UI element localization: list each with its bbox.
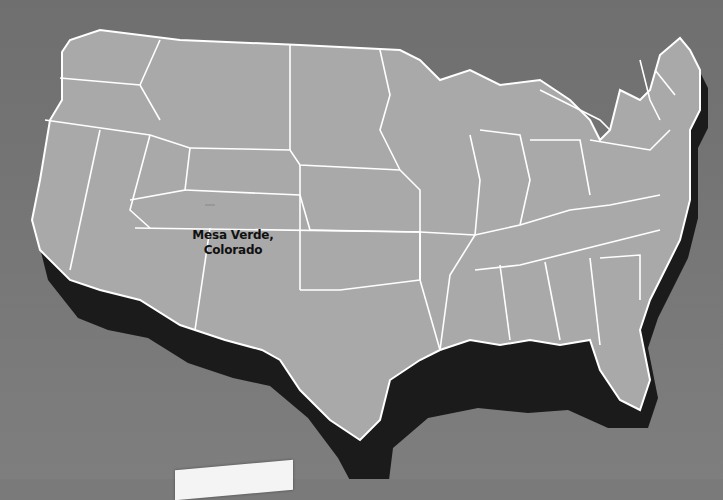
location-label-line2: Colorado (178, 243, 288, 258)
location-label: Mesa Verde, Colorado (178, 228, 288, 258)
location-label-line1: Mesa Verde, (178, 228, 288, 243)
